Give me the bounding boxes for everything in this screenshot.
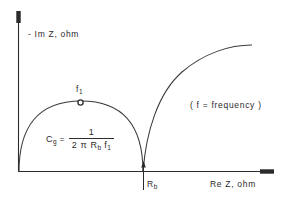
formula-fraction: 1 2 π Rb f1 <box>69 128 114 152</box>
capacitance-formula: Cg = 1 2 π Rb f1 <box>46 128 114 152</box>
formula-numerator: 1 <box>83 128 101 138</box>
formula-lhs: Cg <box>46 134 57 145</box>
nyquist-impedance-figure: - Im Z, ohm Re Z, ohm f1 Rb ( f = freque… <box>0 0 294 208</box>
formula-symbol: C <box>46 134 53 144</box>
formula-denominator-pre: 2 π R <box>72 140 98 150</box>
y-axis-label: - Im Z, ohm <box>28 30 79 39</box>
formula-denominator-sub-1: 1 <box>107 144 111 151</box>
bulk-resistance-label: Rb <box>147 180 157 191</box>
formula-equals-sign: = <box>60 135 65 144</box>
y-axis-arrowhead <box>16 11 20 23</box>
x-axis-label: Re Z, ohm <box>210 180 256 189</box>
formula-symbol-subscript: g <box>53 138 57 145</box>
bulk-resistance-symbol: R <box>147 179 154 189</box>
peak-frequency-subscript: 1 <box>79 88 83 95</box>
f1-marker-dot <box>78 100 83 105</box>
formula-denominator: 2 π Rb f1 <box>69 139 114 152</box>
bulk-resistance-subscript: b <box>154 183 158 190</box>
rb-pointer-arrowhead <box>141 161 146 168</box>
x-axis-arrowhead <box>260 169 274 173</box>
peak-frequency-label: f1 <box>76 85 83 96</box>
frequency-note: ( f = frequency ) <box>190 101 262 110</box>
